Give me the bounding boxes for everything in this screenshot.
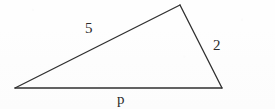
triangle-figure: 5 2 p bbox=[0, 0, 275, 109]
side-label-base: p bbox=[117, 92, 125, 107]
triangle-drawing bbox=[0, 0, 275, 109]
triangle-upper-left-side bbox=[15, 5, 180, 88]
side-label-right: 2 bbox=[213, 38, 221, 53]
side-label-upper-left: 5 bbox=[85, 21, 93, 36]
